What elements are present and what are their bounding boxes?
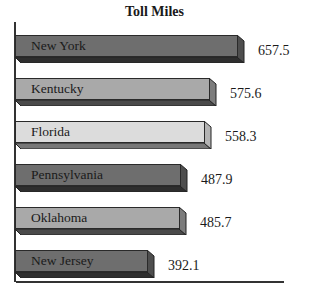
bar: New York [15,35,246,57]
bar: Pennsylvania [15,164,189,186]
bar: Oklahoma [15,207,188,229]
bar: New Jersey [15,250,156,272]
bar-value: 485.7 [200,215,232,231]
bar: Kentucky [15,78,218,100]
bar-value: 392.1 [168,258,200,274]
bar-label: Kentucky [31,81,83,97]
bar-value: 487.9 [201,172,233,188]
bar-label: Oklahoma [31,210,87,226]
bar: Florida [15,121,213,143]
bar-value: 558.3 [225,129,257,145]
bar-label: New York [31,38,86,54]
bar-value: 575.6 [230,86,262,102]
x-axis-line [16,281,284,283]
chart-title: Toll Miles [0,4,309,20]
bar-label: Florida [31,124,70,140]
bar-value: 657.5 [258,43,290,59]
bar-label: Pennsylvania [31,167,103,183]
bar-label: New Jersey [31,253,94,269]
